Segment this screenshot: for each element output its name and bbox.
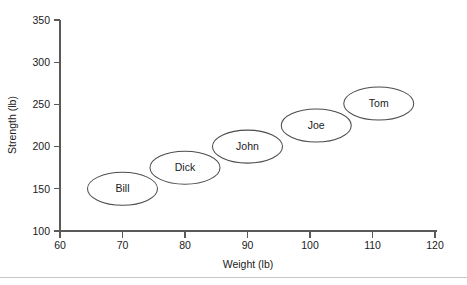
y-tick-label: 300 <box>32 56 50 68</box>
data-point-label: Tom <box>369 97 389 109</box>
data-point[interactable]: Tom <box>344 87 414 120</box>
data-point-label: Joe <box>308 119 325 131</box>
x-axis-ticks: 60708090100110120 <box>54 231 444 251</box>
chart-figure: 100150200250300350 60708090100110120 Str… <box>0 0 467 285</box>
y-tick-label: 350 <box>32 14 50 26</box>
y-axis-ticks: 100150200250300350 <box>32 14 60 237</box>
data-point[interactable]: Joe <box>281 109 351 142</box>
y-tick-label: 250 <box>32 98 50 110</box>
y-axis-title: Strength (lb) <box>6 96 18 154</box>
scatter-plot: 100150200250300350 60708090100110120 Str… <box>0 0 467 285</box>
y-tick-label: 100 <box>32 225 50 237</box>
data-point-label: John <box>236 140 259 152</box>
x-tick-label: 100 <box>301 239 319 251</box>
x-tick-label: 120 <box>426 239 444 251</box>
data-point-group: BillDickJohnJoeTom <box>88 87 414 205</box>
x-tick-label: 90 <box>242 239 254 251</box>
x-tick-label: 80 <box>179 239 191 251</box>
data-point[interactable]: Bill <box>88 172 158 205</box>
y-tick-label: 150 <box>32 183 50 195</box>
data-point[interactable]: Dick <box>150 151 220 184</box>
x-tick-label: 60 <box>54 239 66 251</box>
y-tick-label: 200 <box>32 140 50 152</box>
x-tick-label: 70 <box>117 239 129 251</box>
x-tick-label: 110 <box>364 239 381 251</box>
data-point-label: Dick <box>175 161 196 173</box>
data-point[interactable]: John <box>213 130 283 163</box>
data-point-label: Bill <box>115 182 129 194</box>
x-axis-title: Weight (lb) <box>223 258 274 270</box>
